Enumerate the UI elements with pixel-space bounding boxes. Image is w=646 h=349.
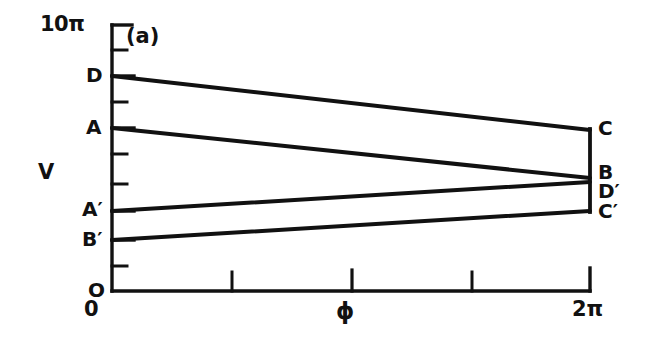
y-axis-label: V: [38, 162, 54, 183]
point-label-A-prime: A′: [82, 199, 103, 219]
point-label-C-prime: C′: [598, 201, 618, 221]
point-label-B-prime: B′: [82, 229, 103, 249]
line-A-to-B: [112, 128, 590, 178]
panel-label: (a): [126, 26, 159, 47]
point-label-D: D: [86, 65, 103, 85]
figure-panel-a: 10π (a) V O D A A′ B′ C B D′ C′ 0 ϕ 2π: [0, 0, 646, 349]
axis-lines: [112, 25, 590, 291]
point-label-C: C: [598, 118, 613, 138]
line-Ap-to-Dp: [112, 182, 590, 211]
line-D-to-C: [112, 76, 590, 130]
x-axis-max-label: 2π: [572, 299, 603, 320]
point-label-D-prime: D′: [598, 181, 620, 201]
y-axis-max-label: 10π: [40, 14, 84, 35]
x-axis-ticks: [232, 268, 590, 291]
point-label-A: A: [86, 117, 101, 137]
data-lines: [112, 76, 590, 240]
x-axis-label: ϕ: [336, 300, 354, 323]
y-axis-ticks: [112, 25, 134, 266]
x-axis-min-label: 0: [84, 299, 99, 320]
line-Bp-to-Cp: [112, 211, 590, 240]
